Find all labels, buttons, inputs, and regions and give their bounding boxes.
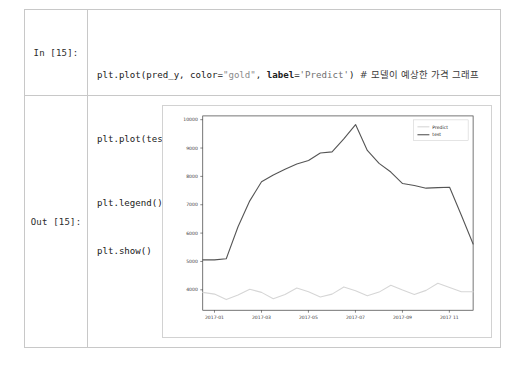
code-l1-kwarg-label: label bbox=[267, 70, 294, 80]
x-tick-label: 2017-01 bbox=[205, 315, 224, 320]
code-cell[interactable]: plt.plot(pred_y, color="gold", label='Pr… bbox=[88, 10, 500, 95]
input-prompt-label: In [15]: bbox=[25, 10, 88, 95]
legend-label-predict: Predict bbox=[432, 125, 448, 130]
series-line-predict bbox=[203, 283, 473, 299]
notebook-cell-table: In [15]: plt.plot(pred_y, color="gold", … bbox=[24, 9, 501, 348]
x-tick-1: 2017-03 bbox=[252, 310, 271, 320]
y-tick-label: 4000 bbox=[186, 287, 198, 292]
y-tick-4000: 4000 bbox=[186, 287, 203, 292]
y-tick-6000: 6000 bbox=[186, 231, 203, 236]
x-tick-4: 2017-09 bbox=[393, 310, 412, 320]
y-tick-label: 9000 bbox=[186, 146, 198, 151]
x-tick-3: 2017-07 bbox=[346, 310, 365, 320]
x-tick-0: 2017-01 bbox=[205, 310, 224, 320]
notebook-input-row: In [15]: plt.plot(pred_y, color="gold", … bbox=[25, 10, 500, 96]
screenshot-root: In [15]: plt.plot(pred_y, color="gold", … bbox=[0, 0, 525, 368]
chart-legend: Predict test bbox=[413, 120, 468, 141]
y-tick-label: 8000 bbox=[186, 174, 198, 179]
x-tick-label: 2017-07 bbox=[346, 315, 365, 320]
series-line-test bbox=[203, 125, 473, 260]
code-l1-close: ) bbox=[349, 70, 360, 80]
code-l1-call: plt.plot(pred_y, color= bbox=[97, 70, 223, 80]
code-line-1: plt.plot(pred_y, color="gold", label='Pr… bbox=[97, 67, 494, 83]
y-tick-label: 6000 bbox=[186, 231, 198, 236]
y-tick-9000: 9000 bbox=[186, 146, 203, 151]
x-tick-2: 2017-05 bbox=[299, 310, 318, 320]
matplotlib-figure: 10000 9000 8000 bbox=[162, 105, 492, 338]
x-tick-label: 2017 11 bbox=[440, 315, 459, 320]
y-axis: 10000 9000 8000 bbox=[183, 117, 202, 292]
notebook-output-row: Out [15]: 10000 bbox=[25, 96, 500, 347]
y-tick-8000: 8000 bbox=[186, 174, 203, 179]
y-tick-7000: 7000 bbox=[186, 202, 203, 207]
code-l1-comment: # 모델이 예상한 가격 그래프 bbox=[360, 69, 479, 80]
code-l1-sep: , bbox=[256, 70, 267, 80]
x-tick-label: 2017-09 bbox=[393, 315, 412, 320]
x-axis: 2017-01 2017-03 2017-05 bbox=[205, 310, 459, 320]
y-tick-label: 7000 bbox=[186, 202, 198, 207]
figure-canvas: 10000 9000 8000 bbox=[163, 106, 491, 337]
output-cell: 10000 9000 8000 bbox=[88, 96, 500, 347]
code-l1-string-predict: 'Predict' bbox=[300, 70, 349, 80]
y-tick-label: 5000 bbox=[186, 259, 198, 264]
y-tick-label: 10000 bbox=[183, 117, 198, 122]
x-tick-label: 2017-05 bbox=[299, 315, 318, 320]
legend-label-test: test bbox=[432, 132, 441, 137]
x-tick-5: 2017 11 bbox=[440, 310, 459, 320]
y-tick-10000: 10000 bbox=[183, 117, 202, 122]
x-tick-label: 2017-03 bbox=[252, 315, 271, 320]
code-l1-string-gold: "gold" bbox=[223, 70, 256, 80]
y-tick-5000: 5000 bbox=[186, 259, 203, 264]
output-prompt-label: Out [15]: bbox=[25, 96, 88, 347]
